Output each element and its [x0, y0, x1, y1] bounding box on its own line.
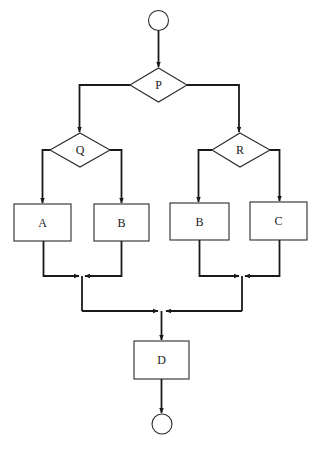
- process-a: A: [14, 204, 71, 241]
- process-b-right: B: [170, 203, 229, 240]
- edge-r-to-c: [270, 150, 280, 201]
- end-terminal: [152, 414, 172, 434]
- process-d: D: [134, 341, 189, 379]
- decision-r-label: R: [236, 143, 244, 157]
- process-c: C: [250, 202, 307, 240]
- process-b-right-label: B: [195, 215, 203, 229]
- process-c-label: C: [274, 214, 282, 228]
- process-b-left-label: B: [117, 216, 125, 230]
- decision-q: Q: [50, 133, 110, 167]
- edge-p-to-q: [80, 85, 131, 132]
- process-a-label: A: [38, 216, 47, 230]
- start-terminal: [149, 11, 169, 31]
- decision-q-label: Q: [76, 143, 85, 157]
- decision-p-label: P: [155, 78, 162, 92]
- process-b-left: B: [94, 204, 149, 241]
- edge-p-to-r: [187, 85, 239, 132]
- flowchart-diagram: P Q R A B B C: [0, 0, 322, 450]
- edge-q-to-a: [43, 150, 51, 203]
- edge-a-to-merge-left: [44, 241, 80, 276]
- edge-b-right-to-merge-right: [200, 240, 240, 276]
- decision-r: R: [212, 133, 270, 167]
- decision-p: P: [130, 68, 187, 102]
- edge-r-to-b-right: [199, 150, 213, 202]
- edge-c-to-merge-right: [245, 240, 280, 276]
- edge-q-to-b-left: [110, 150, 122, 203]
- process-d-label: D: [157, 353, 166, 367]
- edge-b-left-to-merge-left: [85, 241, 122, 276]
